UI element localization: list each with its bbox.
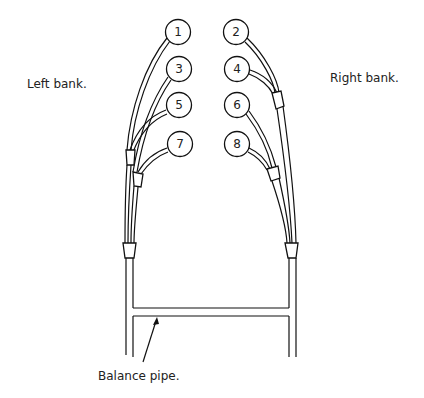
svg-text:8: 8 <box>233 137 241 151</box>
right-collector-upper <box>272 91 284 109</box>
exhaust-manifold-diagram: Left bank. Right bank. Balance pipe. <box>0 0 424 398</box>
svg-text:3: 3 <box>175 62 183 76</box>
cylinder-4: 4 <box>225 57 250 82</box>
svg-text:6: 6 <box>233 98 241 112</box>
cylinder-3: 3 <box>167 57 192 82</box>
balance-pipe-label: Balance pipe. <box>98 369 179 383</box>
balance-pipe-leader-arrow <box>143 317 159 362</box>
cylinder-5: 5 <box>167 93 192 118</box>
left-collector-middle <box>133 172 143 187</box>
svg-text:4: 4 <box>233 62 241 76</box>
left-collector-upper <box>126 150 135 165</box>
svg-text:5: 5 <box>175 98 183 112</box>
cylinder-7: 7 <box>168 132 193 157</box>
cylinder-1: 1 <box>166 20 191 45</box>
cylinder-2: 2 <box>224 20 249 45</box>
left-collector-final <box>123 243 136 258</box>
cylinder-6: 6 <box>225 93 250 118</box>
svg-text:2: 2 <box>232 25 240 39</box>
left-bank-label: Left bank. <box>27 77 87 91</box>
svg-text:7: 7 <box>176 137 184 151</box>
svg-text:1: 1 <box>174 25 182 39</box>
right-bank-label: Right bank. <box>330 71 399 85</box>
cylinder-ports: 1 2 3 4 5 6 7 8 <box>166 20 250 157</box>
right-collector-final <box>285 243 298 258</box>
left-bank-pipes <box>123 38 171 357</box>
right-bank-pipes <box>245 38 298 357</box>
balance-pipe <box>133 308 289 316</box>
cylinder-8: 8 <box>225 132 250 157</box>
right-collector-middle <box>267 166 280 181</box>
